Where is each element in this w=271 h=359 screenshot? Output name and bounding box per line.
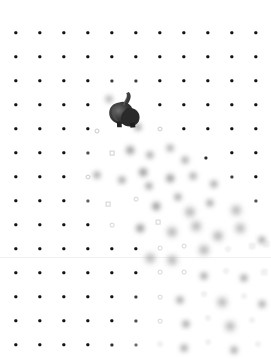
grid-dot bbox=[38, 55, 41, 58]
grid-dot bbox=[110, 151, 115, 156]
grid-dot bbox=[256, 342, 261, 347]
grid-dot bbox=[214, 232, 222, 240]
elephant-silhouette bbox=[106, 89, 142, 129]
grid-dot bbox=[110, 31, 113, 34]
grid-dot bbox=[38, 103, 41, 106]
grid-dot bbox=[158, 246, 163, 251]
grid-dot bbox=[224, 269, 229, 274]
grid-dot bbox=[38, 247, 41, 250]
grid-dot bbox=[206, 340, 211, 345]
grid-dot bbox=[134, 247, 137, 250]
grid-dot bbox=[230, 79, 233, 82]
grid-dot bbox=[86, 151, 89, 154]
grid-dot bbox=[86, 31, 89, 34]
grid-dot bbox=[62, 151, 65, 154]
grid-dot bbox=[158, 342, 163, 347]
grid-dot bbox=[62, 319, 65, 322]
grid-dot bbox=[186, 208, 194, 216]
grid-dot bbox=[14, 175, 17, 178]
grid-dot bbox=[230, 55, 233, 58]
grid-dot bbox=[110, 295, 113, 298]
grid-dot bbox=[62, 175, 65, 178]
grid-dot bbox=[254, 151, 257, 154]
grid-dot bbox=[200, 246, 208, 254]
grid-dot bbox=[158, 319, 163, 324]
grid-dot bbox=[230, 151, 233, 154]
grid-dot bbox=[86, 79, 89, 82]
grid-dot bbox=[134, 197, 139, 202]
grid-dot bbox=[254, 175, 257, 178]
grid-dot bbox=[110, 55, 113, 58]
grid-dot bbox=[182, 79, 185, 82]
grid-dot bbox=[62, 271, 65, 274]
grid-dot bbox=[62, 343, 65, 346]
grid-dot bbox=[62, 103, 65, 106]
grid-dot bbox=[200, 272, 207, 279]
grid-dot bbox=[206, 31, 209, 34]
grid-dot bbox=[146, 151, 153, 158]
grid-dot bbox=[110, 247, 113, 250]
grid-dot bbox=[254, 103, 257, 106]
grid-dot bbox=[14, 127, 17, 130]
grid-dot bbox=[14, 151, 17, 154]
grid-dot bbox=[158, 31, 161, 34]
grid-dot bbox=[86, 223, 89, 226]
grid-dot bbox=[182, 157, 189, 164]
grid-dot bbox=[14, 319, 17, 322]
grid-dot bbox=[38, 295, 41, 298]
grid-dot bbox=[14, 343, 17, 346]
grid-dot bbox=[182, 320, 189, 327]
grid-dot bbox=[182, 103, 185, 106]
grid-dot bbox=[86, 247, 89, 250]
grid-dot bbox=[110, 319, 113, 322]
grid-dot bbox=[38, 199, 41, 202]
grid-dot bbox=[62, 55, 65, 58]
grid-dot bbox=[134, 31, 137, 34]
grid-dot bbox=[134, 319, 137, 322]
grid-dot bbox=[176, 296, 183, 303]
stimulus-canvas bbox=[0, 0, 271, 359]
grid-dot bbox=[38, 319, 41, 322]
grid-dot bbox=[168, 228, 176, 236]
grid-dot bbox=[110, 79, 113, 82]
grid-dot bbox=[62, 295, 65, 298]
grid-dot bbox=[158, 127, 163, 132]
grid-dot bbox=[110, 343, 113, 346]
grid-dot bbox=[202, 292, 207, 297]
grid-dot bbox=[38, 223, 41, 226]
grid-dot bbox=[254, 127, 257, 130]
grid-dot bbox=[230, 103, 233, 106]
grid-dot bbox=[230, 127, 233, 130]
grid-dot bbox=[250, 318, 255, 323]
grid-dot bbox=[158, 79, 161, 82]
grid-dot bbox=[110, 223, 115, 228]
grid-dot bbox=[86, 295, 89, 298]
grid-dot bbox=[210, 180, 217, 187]
grid-dot bbox=[14, 223, 17, 226]
grid-dot bbox=[250, 244, 255, 249]
grid-dot bbox=[158, 103, 161, 106]
grid-dot bbox=[158, 55, 161, 58]
grid-dot bbox=[14, 247, 17, 250]
grid-dot bbox=[236, 224, 244, 232]
grid-dot bbox=[158, 295, 163, 300]
grid-dot bbox=[226, 322, 234, 330]
grid-dot bbox=[145, 182, 152, 189]
grid-dot bbox=[38, 175, 41, 178]
grid-dot bbox=[134, 55, 137, 58]
grid-dot bbox=[254, 31, 257, 34]
grid-dot bbox=[182, 127, 185, 130]
grid-dot bbox=[174, 193, 181, 200]
grid-dot bbox=[146, 254, 154, 262]
grid-dot bbox=[218, 298, 226, 306]
grid-dot bbox=[62, 199, 65, 202]
grid-dot bbox=[14, 271, 17, 274]
grid-dot bbox=[152, 202, 160, 210]
grid-dot bbox=[259, 301, 266, 308]
grid-dot bbox=[106, 202, 111, 207]
grid-dot bbox=[258, 236, 265, 243]
grid-dot bbox=[14, 31, 17, 34]
grid-dot bbox=[134, 295, 137, 298]
grid-dot bbox=[192, 222, 200, 230]
grid-dot bbox=[232, 206, 240, 214]
